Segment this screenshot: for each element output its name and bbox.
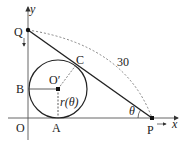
x-axis-label: x — [171, 117, 178, 131]
label-Q: Q — [14, 25, 23, 39]
radius-OC — [58, 65, 76, 89]
origin-label: O — [16, 121, 25, 135]
point-O-prime — [56, 87, 60, 91]
label-C: C — [76, 53, 84, 67]
angle-label: θ — [129, 104, 135, 118]
y-axis-label: y — [29, 2, 36, 16]
label-P: P — [147, 123, 154, 137]
geometry-diagram: y x O Q P C B A O′ 30 θ r(θ) — [0, 0, 183, 142]
length-label: 30 — [117, 55, 129, 69]
angle-arc — [138, 110, 141, 118]
radius-label: r(θ) — [60, 95, 79, 109]
label-B: B — [16, 82, 24, 96]
point-P — [150, 116, 154, 120]
label-A: A — [52, 121, 61, 135]
label-O-prime: O′ — [49, 73, 61, 87]
point-Q — [26, 28, 30, 32]
